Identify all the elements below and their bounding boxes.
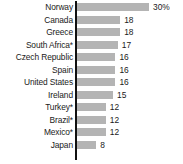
- bar: [77, 116, 106, 124]
- value-label: 15: [117, 90, 126, 100]
- bar: [77, 103, 106, 111]
- category-label: Japan: [0, 140, 73, 150]
- bar-row: South Africa*17: [0, 40, 183, 53]
- bar-row: Spain16: [0, 65, 183, 78]
- value-label: 16: [119, 77, 128, 87]
- value-label: 16: [119, 65, 128, 75]
- value-label: 8: [100, 140, 105, 150]
- plot-area: Norway30%Canada18Greece18South Africa*17…: [0, 0, 183, 164]
- value-label: 18: [124, 15, 133, 25]
- bar-row: Japan8: [0, 140, 183, 153]
- bar: [77, 78, 115, 86]
- category-label: Turkey*: [0, 102, 73, 112]
- value-label: 12: [110, 127, 119, 137]
- bar-row: United States16: [0, 77, 183, 90]
- value-label: 18: [124, 27, 133, 37]
- bar: [77, 91, 113, 99]
- value-label: 30%: [153, 2, 170, 12]
- horizontal-bar-chart: Norway30%Canada18Greece18South Africa*17…: [0, 0, 183, 164]
- bar: [77, 16, 120, 24]
- value-label: 16: [119, 52, 128, 62]
- bar: [77, 3, 149, 11]
- bar: [77, 28, 120, 36]
- category-label: Greece: [0, 27, 73, 37]
- value-label: 12: [110, 115, 119, 125]
- category-label: Spain: [0, 65, 73, 75]
- bar-row: Ireland15: [0, 90, 183, 103]
- category-label: South Africa*: [0, 40, 73, 50]
- category-label: Czech Republic: [0, 52, 73, 62]
- bar-row: Canada18: [0, 15, 183, 28]
- bar-row: Greece18: [0, 27, 183, 40]
- bar-row: Mexico*12: [0, 127, 183, 140]
- category-label: Norway: [0, 2, 73, 12]
- bar: [77, 128, 106, 136]
- bar-row: Turkey*12: [0, 102, 183, 115]
- category-label: United States: [0, 77, 73, 87]
- bar: [77, 66, 115, 74]
- bar-row: Brazil*12: [0, 115, 183, 128]
- category-label: Brazil*: [0, 115, 73, 125]
- category-label: Ireland: [0, 90, 73, 100]
- bar: [77, 141, 96, 149]
- bar-row: Norway30%: [0, 2, 183, 15]
- bar-row: Czech Republic16: [0, 52, 183, 65]
- bar: [77, 41, 118, 49]
- category-label: Canada: [0, 15, 73, 25]
- category-label: Mexico*: [0, 127, 73, 137]
- value-label: 17: [122, 40, 131, 50]
- value-label: 12: [110, 102, 119, 112]
- bar: [77, 53, 115, 61]
